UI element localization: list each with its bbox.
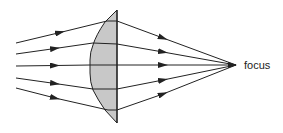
converging-ray-4 xyxy=(117,65,236,89)
ray-diagram: focus xyxy=(0,0,283,133)
converging-ray-1 xyxy=(117,21,236,65)
converging-ray-5 xyxy=(117,65,236,110)
focus-label: focus xyxy=(244,59,271,71)
incident-ray-3 xyxy=(16,65,90,66)
focus-point-arrowhead xyxy=(228,62,237,68)
lens xyxy=(90,10,117,123)
converging-rays xyxy=(117,21,236,110)
incident-ray-1 xyxy=(16,21,107,43)
converging-ray-2 xyxy=(117,44,236,65)
incident-ray-4 xyxy=(16,78,93,89)
incident-ray-2 xyxy=(16,43,93,54)
